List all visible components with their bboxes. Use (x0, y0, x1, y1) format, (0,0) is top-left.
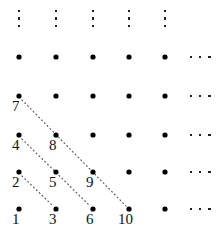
diagonal-lines-group (22, 100, 126, 206)
enumeration-label: 2 (12, 175, 20, 190)
horizontal-ellipsis-icon (190, 56, 211, 59)
ellipsis-dot (199, 56, 202, 59)
lattice-point-dot (90, 93, 95, 98)
enumeration-label: 3 (49, 212, 57, 227)
ellipsis-dot (208, 56, 211, 59)
ellipsis-dot (128, 25, 130, 27)
ellipsis-dot (18, 10, 20, 12)
lattice-canvas (0, 0, 222, 234)
ellipsis-dot (55, 10, 57, 12)
ellipsis-dot (190, 171, 193, 174)
vertical-ellipsis-icon (164, 10, 167, 27)
lattice-point-dot (126, 132, 131, 137)
lattice-point-dot (162, 54, 167, 59)
ellipsis-dot (18, 25, 20, 27)
lattice-point-dot (162, 169, 167, 174)
horizontal-ellipsis-icon (190, 95, 211, 98)
ellipsis-dot (190, 208, 193, 211)
vertical-ellipsis-icon (92, 10, 95, 27)
ellipsis-dot (199, 95, 202, 98)
ellipsis-dot (128, 10, 130, 12)
ellipsis-dot (199, 134, 202, 137)
cantor-pairing-lattice-figure: 12345678910 (0, 0, 222, 234)
ellipsis-dot (190, 134, 193, 137)
ellipsis-dot (92, 10, 94, 12)
lattice-point-dot (90, 54, 95, 59)
lattice-point-dot (90, 132, 95, 137)
ellipsis-dot (208, 208, 211, 211)
lattice-point-dot (16, 54, 21, 59)
ellipsis-dot (128, 17, 130, 19)
ellipsis-dot (190, 56, 193, 59)
horizontal-ellipsis-icon (190, 171, 211, 174)
ellipsis-dot (208, 134, 211, 137)
horizontal-ellipsis-icon (190, 208, 211, 211)
ellipsis-dot (92, 17, 94, 19)
lattice-point-dot (126, 169, 131, 174)
enumeration-label: 9 (86, 175, 94, 190)
ellipsis-dot (199, 208, 202, 211)
lattice-point-dot (162, 206, 167, 211)
enumeration-label: 7 (12, 99, 20, 114)
ellipsis-dot (92, 25, 94, 27)
lattice-point-dot (53, 54, 58, 59)
lattice-point-dot (162, 132, 167, 137)
ellipsis-dot (199, 171, 202, 174)
enumeration-label: 4 (12, 138, 20, 153)
lattice-point-dot (126, 54, 131, 59)
ellipsis-dot (164, 25, 166, 27)
ellipsis-dot (55, 17, 57, 19)
ellipsis-dot (18, 17, 20, 19)
lattice-point-dot (53, 93, 58, 98)
ellipsis-dot (190, 95, 193, 98)
enumeration-label: 6 (86, 212, 94, 227)
vertical-ellipsis-icon (18, 10, 21, 27)
ellipsis-dot (164, 17, 166, 19)
vertical-ellipsis-icon (128, 10, 131, 27)
lattice-point-dot (162, 93, 167, 98)
enumeration-label: 5 (49, 175, 57, 190)
ellipsis-dot (164, 10, 166, 12)
vertical-ellipsis-icon (55, 10, 58, 27)
ellipsis-dot (208, 95, 211, 98)
ellipsis-dot (55, 25, 57, 27)
enumeration-label: 1 (12, 212, 20, 227)
enumeration-label: 8 (49, 138, 57, 153)
horizontal-ellipsis-icon (190, 134, 211, 137)
ellipsis-dot (208, 171, 211, 174)
enumeration-label: 10 (118, 212, 133, 227)
lattice-point-dot (126, 93, 131, 98)
